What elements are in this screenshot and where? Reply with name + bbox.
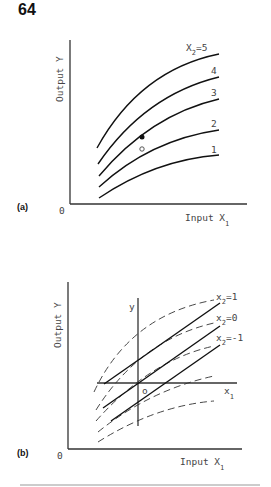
filled-point — [140, 135, 145, 140]
open-point — [140, 147, 144, 151]
panel-label-a: (a) — [17, 202, 28, 212]
local-y-label: y — [129, 301, 135, 312]
line-x2-0 — [103, 326, 220, 408]
x-axis-label: Input X1 — [185, 212, 229, 228]
curve-x2-3 — [99, 99, 219, 176]
caption-cutoff — [20, 484, 260, 486]
label-x2-neg1: x2=-1 — [216, 332, 243, 347]
y-axis-label: Output Y — [52, 302, 63, 348]
local-x-label: x1 — [224, 385, 234, 401]
label-x2-1: 1 — [211, 144, 217, 155]
label-x2-0: x2=0 — [216, 312, 238, 327]
dashed-curve-2 — [98, 376, 214, 432]
x-axis-label: Input X1 — [180, 456, 224, 472]
y-axis-label: Output Y — [54, 56, 65, 102]
dashed-curve-4 — [96, 323, 214, 410]
curve-x2-4 — [98, 77, 219, 164]
label-x2-5: X2=5 — [186, 42, 207, 57]
dashed-curve-1 — [98, 401, 214, 442]
local-origin-label: o — [142, 385, 148, 396]
panel-b: x2=1 x2=0 x2=-1 y x1 o Output Y Input X1… — [17, 282, 243, 472]
label-x2-3: 3 — [211, 87, 217, 98]
panel-label-b: (b) — [17, 448, 29, 458]
label-x2-4: 4 — [211, 65, 217, 76]
line-x2-1 — [104, 303, 220, 384]
curve-x2-1 — [99, 155, 219, 198]
panel-a: X2=5 4 3 2 1 Output Y Input X1 0 (a) — [17, 40, 247, 228]
origin-label: 0 — [57, 450, 63, 461]
origin-label: 0 — [59, 205, 65, 216]
figure: X2=5 4 3 2 1 Output Y Input X1 0 (a) x2=… — [0, 0, 271, 487]
label-x2-2: 2 — [211, 118, 217, 129]
